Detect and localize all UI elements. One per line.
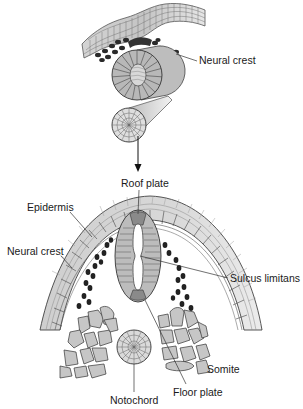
roof-plate-label: Roof plate [121, 177, 169, 189]
top-neural-tube [110, 46, 185, 102]
epidermis-label: Epidermis [27, 201, 74, 213]
transition-arrow [135, 136, 142, 172]
bottom-panel: Roof plate Epidermis Neural crest Sulcus… [7, 177, 300, 406]
top-neural-crest-label: Neural crest [199, 54, 256, 66]
notochord-label: Notochord [110, 394, 159, 406]
bottom-neural-tube [115, 210, 161, 302]
top-panel: Neural crest [82, 3, 256, 142]
sulcus-limitans-label: Sulcus limitans [230, 272, 300, 284]
neural-tube-diagram: Neural crest [0, 0, 303, 409]
left-somite [60, 306, 118, 378]
somite-label: Somite [207, 363, 240, 375]
floor-plate-label: Floor plate [173, 386, 223, 398]
right-somite [158, 308, 210, 375]
bottom-notochord [117, 330, 151, 364]
neural-crest-label: Neural crest [7, 245, 64, 257]
top-notochord [112, 96, 172, 142]
